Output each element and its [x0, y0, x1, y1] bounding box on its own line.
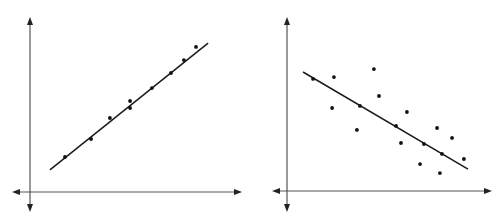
- y-axis: [27, 17, 33, 212]
- arrow-up-icon: [27, 17, 33, 25]
- data-point: [450, 136, 454, 140]
- arrow-down-icon: [27, 204, 33, 212]
- data-point: [394, 124, 398, 128]
- x-axis: [272, 188, 492, 194]
- arrow-up-icon: [284, 17, 290, 25]
- data-points: [63, 45, 198, 159]
- arrow-left-icon: [12, 189, 20, 195]
- data-points: [311, 67, 466, 175]
- data-point: [440, 152, 444, 156]
- data-point: [377, 94, 381, 98]
- data-point: [150, 86, 154, 90]
- data-point: [332, 75, 336, 79]
- data-point: [128, 99, 132, 103]
- scatter-plot-canvas: [0, 0, 252, 221]
- data-point: [462, 157, 466, 161]
- data-point: [422, 142, 426, 146]
- data-point: [169, 71, 173, 75]
- data-point: [355, 128, 359, 132]
- x-axis: [12, 189, 242, 195]
- data-point: [128, 106, 132, 110]
- data-point: [311, 77, 315, 81]
- data-point: [438, 171, 442, 175]
- arrow-left-icon: [272, 188, 280, 194]
- arrow-right-icon: [484, 188, 492, 194]
- data-point: [330, 106, 334, 110]
- data-point: [418, 162, 422, 166]
- negative-correlation-scatter-plot: [252, 0, 504, 221]
- arrow-down-icon: [284, 204, 290, 212]
- data-point: [63, 155, 67, 159]
- scatter-plot-canvas: [252, 0, 504, 221]
- data-point: [399, 141, 403, 145]
- data-point: [89, 137, 93, 141]
- data-point: [182, 58, 186, 62]
- arrow-right-icon: [234, 189, 242, 195]
- data-point: [372, 67, 376, 71]
- data-point: [435, 126, 439, 130]
- data-point: [194, 45, 198, 49]
- data-point: [405, 110, 409, 114]
- y-axis: [284, 17, 290, 212]
- data-point: [108, 116, 112, 120]
- positive-correlation-scatter-plot: [0, 0, 252, 221]
- data-point: [358, 104, 362, 108]
